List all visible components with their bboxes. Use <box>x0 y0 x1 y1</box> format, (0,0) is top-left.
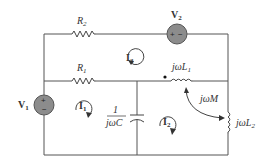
svg-text:−: − <box>42 105 47 114</box>
voltage-source-v2: + − <box>167 24 187 44</box>
resistor-r2 <box>72 31 96 37</box>
inductor-l2 <box>228 112 230 134</box>
voltage-source-v1: + − <box>34 95 54 115</box>
capacitor-label-num: 1 <box>113 104 118 115</box>
i1-label: I1 <box>79 100 87 113</box>
v1-label: V1 <box>18 99 29 112</box>
v2-label: V2 <box>171 9 182 22</box>
mutual-label: jωM <box>198 93 219 104</box>
l1-label: jωL1 <box>170 61 191 74</box>
r1-label: R1 <box>76 62 87 75</box>
inductor-l1 <box>171 79 193 81</box>
svg-text:+: + <box>41 96 46 105</box>
l2-label: jωL2 <box>234 117 255 130</box>
circuit-diagram: R2 R1 + − V2 + − V1 1 jωC jωL1 jωL2 jωM … <box>0 0 268 164</box>
r2-label: R2 <box>76 15 87 28</box>
dot-marker-l1 <box>163 75 166 78</box>
i3-label: I3 <box>126 52 134 65</box>
svg-text:+: + <box>170 30 175 39</box>
svg-text:−: − <box>178 30 183 39</box>
capacitor-label-den: jωC <box>104 117 123 128</box>
resistor-r1 <box>72 78 96 84</box>
i2-label: I2 <box>163 116 171 129</box>
